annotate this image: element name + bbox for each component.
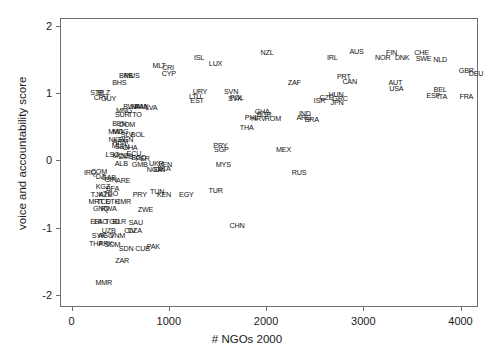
x-tick-label: 0: [69, 315, 75, 327]
x-axis-title: # NGOs 2000: [0, 333, 494, 345]
y-tick-label: -2: [42, 289, 52, 301]
y-tick-label: -1: [42, 222, 52, 234]
scatter-plot-figure: -2-1012 01000200030004000 NZLISLLUXAUSIR…: [0, 0, 494, 359]
x-tick-label: 1000: [157, 315, 181, 327]
x-tick-label: 2000: [254, 315, 278, 327]
y-tick-mark: [56, 93, 60, 94]
x-tick-mark: [363, 307, 364, 311]
plot-frame: [60, 18, 478, 307]
x-tick-mark: [266, 307, 267, 311]
y-tick-mark: [56, 26, 60, 27]
y-tick-label: 2: [46, 20, 52, 32]
y-tick-label: 1: [46, 87, 52, 99]
y-axis-title: voice and accountability score: [16, 77, 28, 230]
x-tick-label: 3000: [351, 315, 375, 327]
x-tick-mark: [461, 307, 462, 311]
y-tick-mark: [56, 295, 60, 296]
y-tick-mark: [56, 160, 60, 161]
x-tick-mark: [169, 307, 170, 311]
y-tick-mark: [56, 228, 60, 229]
x-tick-label: 4000: [448, 315, 472, 327]
x-tick-mark: [72, 307, 73, 311]
y-tick-label: 0: [46, 154, 52, 166]
